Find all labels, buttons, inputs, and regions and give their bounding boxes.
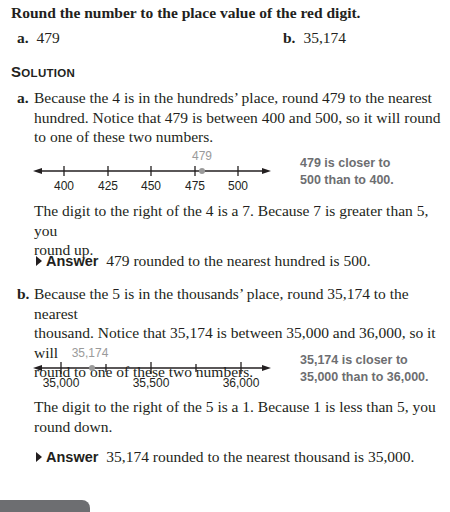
part-b-note: 35,174 is closer to 35,000 than to 36,00…	[300, 352, 429, 386]
explain-line: The digit to the right of the 4 is a 7. …	[34, 201, 446, 240]
tick-label: 35,000	[43, 376, 80, 390]
arrow-left-icon	[33, 168, 42, 174]
tick-label: 400	[54, 179, 74, 193]
part-a-answer: Answer 479 rounded to the nearest hundre…	[36, 252, 371, 270]
problem-b-label: b.	[283, 29, 296, 46]
part-a-label: a.	[17, 88, 29, 108]
answer-tag: Answer	[46, 449, 98, 465]
tick-label: 475	[185, 179, 205, 193]
explain-line: round down.	[34, 417, 446, 437]
point-label: 35,174	[72, 346, 109, 360]
tick-label: 35,500	[133, 376, 170, 390]
problem-a: a. 479	[17, 29, 60, 47]
arrow-left-icon	[33, 365, 42, 371]
tick-label: 36,000	[223, 376, 260, 390]
note-line: 500 than to 400.	[300, 172, 394, 189]
problem-a-value: 479	[37, 29, 60, 46]
problem-a-label: a.	[17, 29, 29, 46]
solution-heading: SOLUTION	[11, 63, 75, 80]
part-a-intro-line: Because the 4 is in the hundreds’ place,…	[34, 88, 446, 108]
part-b-label: b.	[17, 284, 30, 304]
answer-text: 479 rounded to the nearest hundred is 50…	[106, 252, 370, 269]
part-a-note: 479 is closer to 500 than to 400.	[300, 155, 394, 189]
arrow-right-icon	[262, 168, 271, 174]
answer-tag: Answer	[46, 253, 98, 269]
note-line: 35,174 is closer to	[300, 352, 429, 369]
part-b-explanation: The digit to the right of the 5 is a 1. …	[34, 397, 446, 436]
number-line-b: 35,174 35,000 35,500 36,000	[0, 345, 280, 390]
triangle-bullet-icon	[36, 256, 42, 266]
number-line-a: 479 400 425 450 475 500	[0, 148, 280, 193]
part-b-answer: Answer 35,174 rounded to the nearest tho…	[36, 448, 415, 466]
part-a-intro-line: hundred. Notice that 479 is between 400 …	[34, 108, 446, 128]
point-marker	[199, 168, 205, 174]
exercise-prompt: Round the number to the place value of t…	[11, 4, 360, 22]
answer-text: 35,174 rounded to the nearest thousand i…	[106, 448, 414, 465]
tick-label: 425	[98, 179, 118, 193]
triangle-bullet-icon	[36, 452, 42, 462]
arrow-right-icon	[262, 365, 271, 371]
problem-b-value: 35,174	[303, 29, 346, 46]
problem-b: b. 35,174	[283, 29, 346, 47]
tick-label: 500	[228, 179, 248, 193]
point-marker	[89, 365, 95, 371]
note-line: 35,000 than to 36,000.	[300, 369, 429, 386]
note-line: 479 is closer to	[300, 155, 394, 172]
part-a-explanation: The digit to the right of the 4 is a 7. …	[34, 201, 446, 260]
point-label: 479	[192, 149, 212, 163]
bottom-tab	[0, 500, 90, 512]
part-b-intro-line: Because the 5 is in the thousands’ place…	[34, 284, 446, 323]
tick-label: 450	[141, 179, 161, 193]
explain-line: The digit to the right of the 5 is a 1. …	[34, 397, 446, 417]
part-a-intro-line: to one of these two numbers.	[34, 127, 446, 147]
